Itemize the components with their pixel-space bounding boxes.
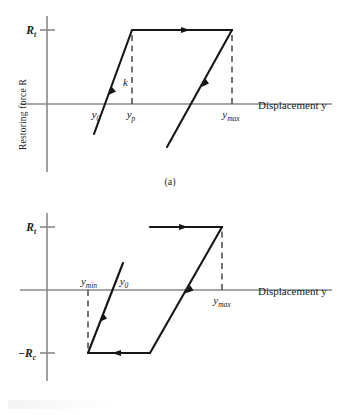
subfigure-caption-a: (a): [0, 176, 340, 187]
figure-page: Rt y0 yp ymax k Displacement y Restoring…: [0, 0, 340, 415]
arrowhead-plateau-a: [181, 27, 190, 33]
x-tick-label-ymax-b: ymax: [212, 294, 231, 309]
y-tick-label-minus-Rc-b: −Rc: [18, 347, 37, 362]
y-axis-title-a: Restoring force R: [18, 79, 28, 150]
arrowhead-top-plateau-b: [179, 224, 188, 230]
x-tick-label-y0-b: y0: [119, 275, 129, 290]
page-edge-smudge: [8, 400, 118, 409]
annotation-stiffness-k-a: k: [123, 76, 129, 88]
left-rising-branch-b: [88, 263, 123, 353]
unloading-branch-a: [167, 30, 232, 147]
subfigure-b: Rt −Rc ymin y0 ymax Displacement y Resto…: [0, 205, 340, 415]
y-tick-label-Rt-a: Rt: [25, 24, 37, 39]
x-tick-label-ymax-a: ymax: [221, 108, 240, 123]
arrowhead-left-rising-b: [100, 313, 108, 322]
arrowhead-bottom-plateau-b: [112, 350, 121, 356]
x-axis-title-a: Displacement y: [258, 99, 327, 111]
x-tick-label-y0-a: y0: [91, 108, 101, 123]
x-tick-label-ymin-b: ymin: [80, 275, 97, 290]
subfigure-a: Rt y0 yp ymax k Displacement y Restoring…: [0, 0, 340, 205]
plot-a: Rt y0 yp ymax k Displacement y: [0, 0, 340, 205]
y-tick-label-Rt-b: Rt: [25, 221, 37, 236]
plot-b: Rt −Rc ymin y0 ymax Displacement y: [0, 205, 340, 415]
x-axis-title-b: Displacement y: [258, 285, 327, 297]
x-tick-label-yp-a: yp: [126, 108, 136, 123]
